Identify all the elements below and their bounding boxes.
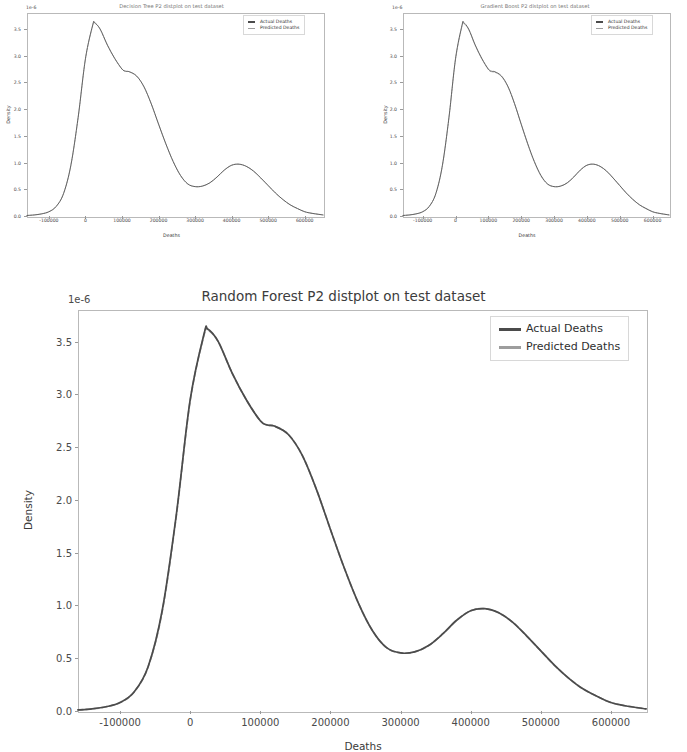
predicted-deaths-curve (403, 22, 669, 215)
curve-layer (0, 272, 687, 748)
curve-layer (0, 0, 343, 245)
actual-deaths-curve (403, 21, 669, 215)
predicted-deaths-curve (78, 327, 646, 710)
actual-deaths-curve (27, 21, 323, 215)
actual-deaths-curve (78, 326, 646, 710)
predicted-deaths-curve (27, 22, 323, 216)
curve-layer (383, 0, 687, 245)
gradient-boost-distplot-figure: Gradient Boost P2 distplot on test datas… (383, 0, 687, 245)
decision-tree-distplot-figure: Decision Tree P2 distplot on test datase… (0, 0, 343, 245)
random-forest-distplot-figure: Random Forest P2 distplot on test datase… (0, 272, 687, 748)
